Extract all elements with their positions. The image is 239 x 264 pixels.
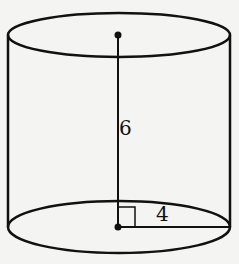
height-label: 6 bbox=[119, 118, 132, 138]
right-angle-marker bbox=[118, 207, 135, 227]
radius-label: 4 bbox=[156, 204, 169, 224]
top-center-point bbox=[115, 32, 122, 39]
